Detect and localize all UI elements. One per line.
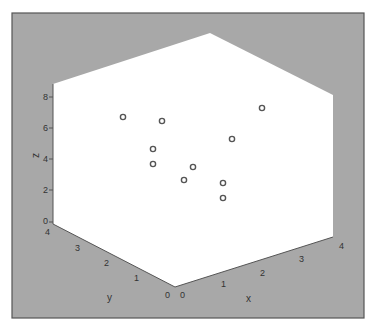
x-tick-label: 1 <box>221 279 226 289</box>
x-axis-label: x <box>246 293 251 304</box>
x-tick-label: 0 <box>180 290 185 300</box>
y-tick-label: 3 <box>75 243 80 253</box>
z-tick-label: 2 <box>43 185 48 195</box>
x-tick-label: 3 <box>299 254 304 264</box>
z-tick-label: 0 <box>43 216 48 226</box>
y-tick-label: 1 <box>134 273 139 283</box>
y-tick-label: 4 <box>45 227 50 237</box>
y-tick-label: 2 <box>104 258 109 268</box>
z-tick-label: 8 <box>43 92 48 102</box>
x-tick-label: 4 <box>339 241 344 251</box>
z-axis-label: z <box>30 153 41 158</box>
y-tick-label: 0 <box>165 290 170 300</box>
z-tick-label: 6 <box>43 123 48 133</box>
scatter3d-chart: 0 2 4 6 8 z 4 3 2 1 0 y 0 1 2 3 4 x <box>0 0 375 329</box>
y-axis-label: y <box>107 292 112 303</box>
z-tick-label: 4 <box>43 154 48 164</box>
x-tick-label: 2 <box>260 268 265 278</box>
